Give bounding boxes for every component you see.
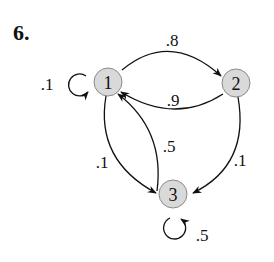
svg-text:2: 2 <box>232 74 241 94</box>
markov-chain-diagram: .1 .8 .9 .1 .5 .1 .5 1 2 3 <box>0 0 274 262</box>
edge-1-1 <box>69 74 88 96</box>
node-1: 1 <box>94 68 122 96</box>
edge-3-3 <box>164 218 186 239</box>
svg-text:1: 1 <box>104 73 113 93</box>
edge-label-3-3: .5 <box>196 226 209 245</box>
edge-3-1 <box>118 94 158 191</box>
edge-label-2-3: .1 <box>234 151 247 170</box>
edge-2-3 <box>193 97 240 193</box>
svg-text:3: 3 <box>169 185 178 205</box>
edge-label-1-3: .1 <box>96 153 109 172</box>
edge-1-3 <box>104 96 156 193</box>
edge-label-2-1: .9 <box>167 91 180 110</box>
edge-label-1-2: .8 <box>166 31 179 50</box>
edge-1-2 <box>122 51 221 76</box>
node-3: 3 <box>159 180 187 208</box>
node-2: 2 <box>222 69 250 97</box>
edge-label-1-1: .1 <box>41 75 54 94</box>
edge-label-3-1: .5 <box>163 137 176 156</box>
